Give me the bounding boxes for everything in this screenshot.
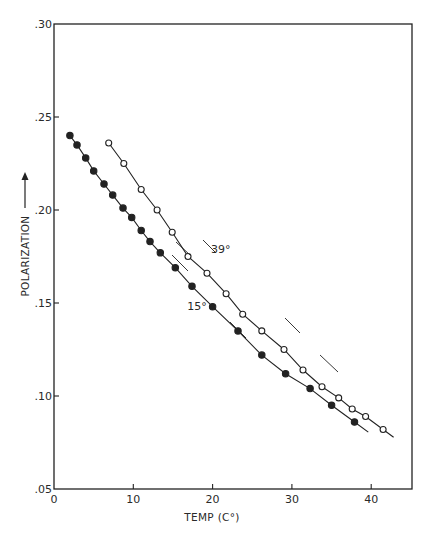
open-marker xyxy=(204,270,210,276)
open-marker xyxy=(185,254,191,260)
open-marker xyxy=(300,367,306,373)
filled-marker xyxy=(235,328,241,334)
x-tick-label: 30 xyxy=(285,493,299,506)
y-axis-title: POLARIZATION xyxy=(19,215,31,296)
filled-marker xyxy=(282,371,288,377)
open-marker xyxy=(138,187,144,193)
y-tick-label: .10 xyxy=(35,390,53,403)
filled-marker xyxy=(67,132,73,138)
filled-marker xyxy=(307,385,313,391)
filled-marker xyxy=(74,142,80,148)
tangent-mark xyxy=(230,322,246,338)
open-marker xyxy=(154,207,160,213)
x-axis-ticks: 010203040 xyxy=(51,484,379,506)
open-marker xyxy=(281,347,287,353)
filled-marker xyxy=(328,402,334,408)
series-line-1 xyxy=(109,143,394,437)
open-marker xyxy=(319,384,325,390)
filled-marker xyxy=(83,155,89,161)
tangent-mark xyxy=(176,242,190,255)
filled-marker xyxy=(129,214,135,220)
filled-marker xyxy=(209,304,215,310)
y-tick-label: .20 xyxy=(35,204,53,217)
data-series xyxy=(67,132,394,437)
x-tick-label: 10 xyxy=(126,493,140,506)
curve-label: 39° xyxy=(211,243,231,256)
open-marker xyxy=(259,328,265,334)
filled-marker xyxy=(120,205,126,211)
tangent-mark xyxy=(285,318,300,333)
open-marker xyxy=(349,406,355,412)
x-tick-label: 20 xyxy=(206,493,220,506)
y-tick-label: .30 xyxy=(35,18,53,31)
y-tick-label: .05 xyxy=(35,483,53,496)
y-tick-label: .25 xyxy=(35,111,53,124)
filled-marker xyxy=(147,238,153,244)
filled-marker xyxy=(259,352,265,358)
filled-marker xyxy=(351,419,357,425)
x-tick-label: 40 xyxy=(364,493,378,506)
arrow-up-icon xyxy=(22,172,29,208)
filled-marker xyxy=(172,265,178,271)
open-marker xyxy=(380,427,386,433)
open-marker xyxy=(240,311,246,317)
filled-marker xyxy=(101,181,107,187)
curve-label: 15° xyxy=(187,300,207,313)
tangent-mark xyxy=(320,355,338,372)
y-tick-label: .15 xyxy=(35,297,53,310)
filled-marker xyxy=(91,168,97,174)
open-marker xyxy=(121,161,127,167)
y-axis-ticks: .05.10.15.20.25.30 xyxy=(35,18,60,496)
polarization-vs-temperature-chart: 010203040 .05.10.15.20.25.30 39°15° TEMP… xyxy=(0,0,426,536)
open-marker xyxy=(223,291,229,297)
filled-marker xyxy=(157,250,163,256)
y-axis-title-group: POLARIZATION xyxy=(19,172,31,297)
open-marker xyxy=(336,395,342,401)
open-marker xyxy=(106,140,112,146)
open-marker xyxy=(363,414,369,420)
x-axis-title: TEMP (C°) xyxy=(183,511,239,523)
filled-marker xyxy=(110,192,116,198)
plot-frame xyxy=(54,24,412,489)
filled-marker xyxy=(138,227,144,233)
open-marker xyxy=(169,229,175,235)
filled-marker xyxy=(189,283,195,289)
